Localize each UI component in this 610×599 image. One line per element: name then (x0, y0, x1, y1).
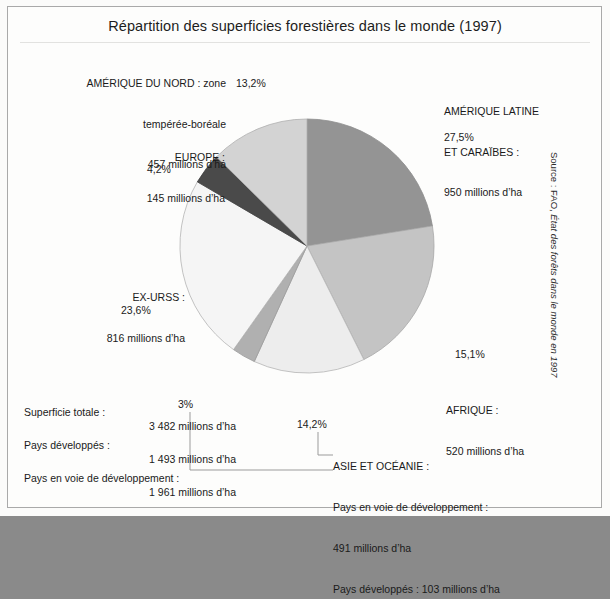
totals-total-key: Superficie totale : (24, 406, 236, 420)
label-europe: EUROPE : 145 millions d’ha (60, 124, 225, 232)
label-africa-line1: AFRIQUE : (446, 404, 596, 418)
totals-block: Superficie totale : 3 482 millions d’ha … (24, 406, 236, 506)
percent-africa: 15,1% (455, 348, 485, 360)
totals-row-developed: Pays développés : 1 493 millions d’ha (24, 439, 236, 466)
label-north-america-line1: AMÉRIQUE DU NORD : zone (52, 77, 226, 91)
source-title: État des forêts dans le monde en 1997 (549, 214, 560, 377)
label-asia-oceania-line4: Pays développés : 103 millions d’ha (333, 583, 500, 597)
label-europe-line2: 145 millions d’ha (60, 192, 225, 206)
percent-latin-america: 27,5% (444, 131, 474, 143)
page-title: Répartition des superficies forestières … (0, 18, 610, 34)
title-divider (20, 42, 590, 43)
label-asia-oceania-line2: Pays en voie de développement : (333, 501, 500, 515)
label-asia-oceania-line3: 491 millions d’ha (333, 542, 500, 556)
label-ex-urss-line1: EX-URSS : (40, 291, 185, 305)
totals-developing-key: Pays en voie de développement : (24, 472, 236, 486)
label-latin-america: AMÉRIQUE LATINE ET CARAÏBES : 950 millio… (444, 78, 594, 227)
totals-row-total: Superficie totale : 3 482 millions d’ha (24, 406, 236, 433)
totals-developing-value: 1 961 millions d’ha (24, 486, 236, 500)
label-latin-america-line1: AMÉRIQUE LATINE (444, 105, 594, 119)
label-ex-urss-line2: 816 millions d’ha (40, 332, 185, 346)
label-asia-oceania: ASIE ET OCÉANIE : Pays en voie de dévelo… (333, 433, 500, 599)
percent-europe: 4,2% (147, 163, 171, 175)
label-latin-america-line3: 950 millions d’ha (444, 186, 594, 200)
pie-slice-latin-america[interactable] (307, 119, 432, 246)
label-ex-urss: EX-URSS : 816 millions d’ha (40, 264, 185, 372)
source-note: Source : FAO, État des forêts dans le mo… (549, 152, 560, 402)
percent-asia-developing: 14,2% (297, 418, 327, 430)
totals-total-value: 3 482 millions d’ha (24, 420, 236, 434)
totals-developed-key: Pays développés : (24, 439, 236, 453)
percent-ex-urss: 23,6% (121, 304, 151, 316)
percent-north-america: 13,2% (236, 77, 266, 89)
totals-developed-value: 1 493 millions d’ha (24, 453, 236, 467)
totals-row-developing: Pays en voie de développement : 1 961 mi… (24, 472, 236, 499)
source-prefix: Source : FAO, (549, 152, 560, 214)
label-latin-america-line2: ET CARAÏBES : (444, 146, 594, 160)
label-asia-oceania-line1: ASIE ET OCÉANIE : (333, 460, 500, 474)
label-europe-line1: EUROPE : (60, 151, 225, 165)
